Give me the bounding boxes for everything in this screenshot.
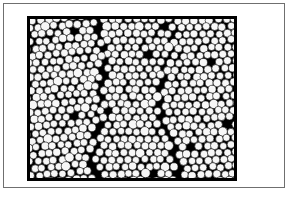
particle xyxy=(36,38,43,45)
particle xyxy=(179,38,187,46)
particle xyxy=(132,72,139,79)
particle xyxy=(170,116,178,124)
particle xyxy=(134,141,141,148)
particle xyxy=(35,122,43,130)
particle xyxy=(40,80,47,87)
particle xyxy=(54,114,61,121)
particle xyxy=(212,65,220,73)
particle xyxy=(65,20,73,28)
particle xyxy=(50,22,57,29)
particle xyxy=(61,99,69,107)
particle xyxy=(97,134,105,142)
particle xyxy=(69,98,76,105)
particle xyxy=(177,73,184,80)
particle xyxy=(136,50,144,58)
particle xyxy=(207,30,215,38)
particle xyxy=(190,136,197,143)
particle xyxy=(175,45,183,53)
particle xyxy=(120,79,127,86)
particle xyxy=(45,114,53,122)
particle xyxy=(96,148,104,156)
particle xyxy=(189,80,196,87)
particle xyxy=(124,142,132,150)
figure-root xyxy=(0,0,289,202)
particle xyxy=(153,120,161,128)
particle xyxy=(117,141,125,149)
particle xyxy=(128,107,136,115)
particle xyxy=(59,34,67,42)
particle xyxy=(116,58,123,65)
particle xyxy=(88,40,95,47)
particle xyxy=(75,34,83,42)
particle xyxy=(129,92,137,100)
particle xyxy=(170,101,177,108)
particle xyxy=(140,72,148,80)
particle xyxy=(59,170,66,177)
particle xyxy=(41,142,49,150)
particle xyxy=(140,30,147,37)
particle xyxy=(207,149,215,157)
particle xyxy=(86,26,94,34)
particle xyxy=(73,90,80,97)
particle xyxy=(117,170,125,178)
particle xyxy=(196,79,204,87)
particle xyxy=(152,50,160,58)
particle xyxy=(60,133,68,141)
particle xyxy=(128,50,135,57)
particle xyxy=(203,115,210,122)
particle xyxy=(223,57,231,65)
particle xyxy=(199,164,207,172)
particle xyxy=(168,87,176,95)
particle xyxy=(43,121,51,129)
particle xyxy=(67,34,75,42)
particle xyxy=(71,160,78,167)
particle xyxy=(92,95,100,103)
particle xyxy=(73,20,81,28)
particle xyxy=(158,129,165,136)
particle xyxy=(49,156,57,164)
particle xyxy=(49,106,57,114)
particle xyxy=(30,66,37,73)
particle xyxy=(57,91,65,99)
particle xyxy=(53,148,61,156)
particle xyxy=(79,27,87,35)
particle xyxy=(181,171,188,178)
particle xyxy=(225,162,233,170)
particle xyxy=(132,59,139,66)
particle xyxy=(157,142,164,149)
plate-border xyxy=(3,3,285,188)
particle xyxy=(179,143,187,151)
particle xyxy=(67,169,75,177)
particle xyxy=(35,157,42,164)
particle xyxy=(105,93,112,100)
particle xyxy=(136,107,143,114)
particle xyxy=(205,170,213,178)
particle xyxy=(50,120,57,127)
particle xyxy=(154,107,161,114)
particle xyxy=(228,22,234,29)
particle xyxy=(44,51,52,59)
particle xyxy=(208,43,215,50)
particle xyxy=(104,65,111,72)
particle xyxy=(198,108,205,115)
particle xyxy=(197,171,205,178)
particle xyxy=(105,149,113,157)
particle xyxy=(149,128,156,135)
particle xyxy=(76,167,83,174)
particle xyxy=(115,44,122,51)
particle xyxy=(225,72,232,79)
particle xyxy=(104,121,111,128)
particle xyxy=(178,115,186,123)
particle xyxy=(172,81,179,88)
particle xyxy=(40,93,48,101)
particle xyxy=(81,54,88,61)
particle xyxy=(65,91,72,98)
particle xyxy=(229,64,234,72)
particle xyxy=(122,163,129,170)
particle xyxy=(223,134,230,141)
particle xyxy=(73,139,81,147)
particle xyxy=(188,172,196,178)
particle xyxy=(80,89,88,97)
particle xyxy=(204,51,211,58)
particle xyxy=(100,87,108,95)
